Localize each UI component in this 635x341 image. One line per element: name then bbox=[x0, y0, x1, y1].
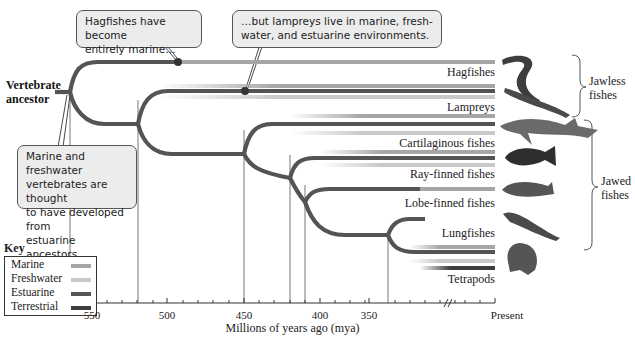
taxon-label-ray-finned: Ray-finned fishes bbox=[410, 167, 495, 182]
hagfish-event-dot bbox=[174, 58, 182, 66]
taxon-label-hagfishes: Hagfishes bbox=[447, 65, 495, 80]
key-label-marine: Marine bbox=[11, 258, 44, 270]
shark-icon bbox=[500, 118, 598, 145]
animal-illustrations bbox=[500, 56, 598, 275]
root-label-line: Vertebrate bbox=[6, 78, 61, 92]
callout-text: vertebrates are thought bbox=[26, 177, 128, 205]
lamprey-callout: …but lampreys live in marine, fresh- wat… bbox=[232, 10, 442, 48]
axis-tick-400: 400 bbox=[312, 309, 329, 321]
group-label-line: fishes bbox=[589, 88, 626, 102]
vertebrate-phylogeny-diagram: Hagfishes have become entirely marine… …… bbox=[0, 0, 635, 341]
key-label-freshwater: Freshwater bbox=[11, 272, 62, 284]
group-label-line: Jawed bbox=[601, 174, 631, 188]
taxon-label-lobe-finned: Lobe-finned fishes bbox=[405, 196, 495, 211]
time-axis bbox=[77, 298, 495, 307]
key-label-terrestrial: Terrestrial bbox=[11, 300, 58, 312]
key-swatch-freshwater bbox=[71, 278, 91, 282]
axis-tick-present: Present bbox=[491, 309, 523, 321]
group-label-jawed: Jawed fishes bbox=[601, 174, 631, 202]
ancestor-callout: Marine and freshwater vertebrates are th… bbox=[17, 145, 137, 209]
axis-tick-550: 550 bbox=[84, 309, 101, 321]
group-label-jawless: Jawless fishes bbox=[589, 74, 626, 102]
taxon-label-lungfishes: Lungfishes bbox=[442, 226, 495, 241]
callout-text: to have developed from bbox=[26, 205, 128, 233]
axis-tick-450: 450 bbox=[236, 309, 253, 321]
hagfish-callout: Hagfishes have become entirely marine… bbox=[76, 10, 202, 48]
callout-text: water, and estuarine environments. bbox=[241, 28, 433, 42]
lamprey-icon bbox=[504, 88, 570, 118]
taxon-label-lampreys: Lampreys bbox=[447, 100, 495, 115]
axis-tick-350: 350 bbox=[361, 309, 378, 321]
group-label-line: Jawless bbox=[589, 74, 626, 88]
axis-tick-500: 500 bbox=[159, 309, 176, 321]
callout-text: …but lampreys live in marine, fresh- bbox=[241, 14, 433, 28]
taxon-label-cartilaginous: Cartilaginous fishes bbox=[399, 136, 495, 151]
lamprey-event-dot bbox=[241, 87, 249, 95]
callout-text: entirely marine… bbox=[85, 42, 193, 56]
key-label-estuarine: Estuarine bbox=[11, 286, 54, 298]
axis-title: Millions of years ago (mya) bbox=[0, 321, 610, 336]
perch-icon bbox=[505, 146, 556, 166]
key-swatch-marine bbox=[71, 264, 91, 268]
coelacanth-icon bbox=[502, 182, 554, 197]
frog-icon bbox=[507, 243, 537, 275]
key-title: Key bbox=[4, 241, 25, 256]
callout-text: Hagfishes have become bbox=[85, 14, 193, 42]
key-swatch-estuarine bbox=[71, 292, 91, 296]
key-legend: Marine Freshwater Estuarine Terrestrial bbox=[4, 256, 97, 316]
lungfish-icon bbox=[503, 212, 560, 241]
root-label: Vertebrate ancestor bbox=[6, 78, 61, 106]
taxon-label-tetrapods: Tetrapods bbox=[448, 272, 495, 287]
root-label-line: ancestor bbox=[6, 92, 61, 106]
callout-text: Marine and freshwater bbox=[26, 149, 128, 177]
group-label-line: fishes bbox=[601, 188, 631, 202]
